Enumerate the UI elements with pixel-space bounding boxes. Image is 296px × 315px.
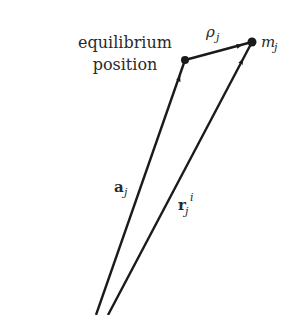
vector-rho (185, 42, 252, 60)
a-vector-label: a j (114, 178, 128, 199)
r-vector-label: r j i (178, 191, 194, 218)
vector-diagram: equilibrium position ρ j m j a j r j i (0, 0, 296, 315)
vector-r (108, 42, 252, 315)
vector-a (96, 60, 185, 315)
rho-label: ρ j (205, 23, 220, 44)
mass-point (248, 38, 257, 47)
svg-text:a: a (114, 178, 124, 196)
mass-label: m j (261, 33, 278, 54)
equilibrium-label-line2: position (93, 55, 158, 74)
svg-text:i: i (190, 191, 194, 204)
equilibrium-point (181, 56, 189, 64)
equilibrium-label-line1: equilibrium (78, 33, 172, 52)
svg-text:ρ: ρ (205, 23, 215, 41)
